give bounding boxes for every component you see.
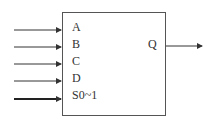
input-label-a: A xyxy=(72,21,81,33)
diagram-canvas xyxy=(0,0,211,124)
input-label-c: C xyxy=(72,55,80,67)
output-label-q: Q xyxy=(148,38,157,50)
input-label-select: S0~1 xyxy=(72,89,97,101)
input-label-b: B xyxy=(72,38,80,50)
input-label-d: D xyxy=(72,72,81,84)
